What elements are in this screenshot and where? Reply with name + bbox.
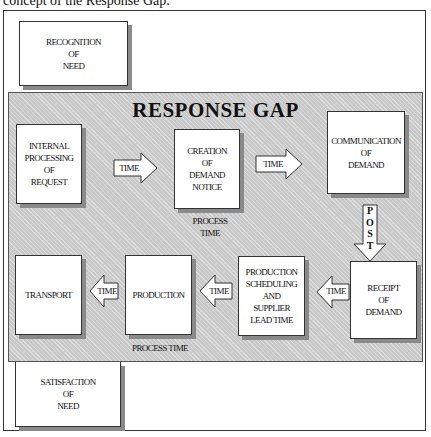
box-line: RECEIPT <box>366 282 402 294</box>
box-line: NOTICE <box>187 181 227 193</box>
post-letter: O <box>360 217 380 229</box>
time-label: TIME <box>323 285 349 297</box>
satisfaction-of-need-box: SATISFACTION OF NEED <box>15 362 121 427</box>
box-line: OF <box>366 294 402 306</box>
box-line: PRODUCTION <box>132 289 184 301</box>
box-line: OF <box>24 164 73 176</box>
box-line: DEMAND <box>366 306 402 318</box>
box-line: PROCESSING <box>24 152 73 164</box>
box-line: OF <box>46 48 101 60</box>
time-label: TIME <box>206 285 232 297</box>
box-line: NEED <box>46 60 101 72</box>
box-line: SATISFACTION <box>40 376 95 388</box>
recognition-of-need-box: RECOGNITION OF NEED <box>19 21 128 86</box>
figure-caption: concept of the Response Gap. <box>3 0 170 9</box>
process-time-label-bottom: PROCESS TIME <box>110 342 210 354</box>
time-label: TIME <box>115 162 143 174</box>
box-line: NEED <box>40 400 95 412</box>
process-time-label-top: PROCESS TIME <box>180 215 240 239</box>
label-line: PROCESS <box>180 215 240 227</box>
post-letter: S <box>360 228 380 240</box>
creation-of-demand-notice-box: CREATION OF DEMAND NOTICE <box>174 129 240 209</box>
box-line: COMMUNICATION <box>331 135 401 147</box>
box-line: OF <box>40 388 95 400</box>
production-scheduling-box: PRODUCTION SCHEDULING AND SUPPLIER LEAD … <box>238 256 305 336</box>
communication-of-demand-box: COMMUNICATION OF DEMAND <box>327 111 405 194</box>
internal-processing-box: INTERNAL PROCESSING OF REQUEST <box>16 124 82 204</box>
box-line: DEMAND <box>187 169 227 181</box>
box-line: OF <box>187 157 227 169</box>
transport-box: TRANSPORT <box>15 255 82 335</box>
box-line: REQUEST <box>24 176 73 188</box>
box-line: OF <box>331 147 401 159</box>
label-line: TIME <box>180 227 240 239</box>
receipt-of-demand-box: RECEIPT OF DEMAND <box>350 261 417 339</box>
box-line: CREATION <box>187 145 227 157</box>
box-line: SCHEDULING <box>245 278 297 290</box>
box-line: RECOGNITION <box>46 36 101 48</box>
box-line: LEAD TIME <box>245 314 297 326</box>
box-line: AND <box>245 290 297 302</box>
production-box: PRODUCTION <box>125 255 192 335</box>
box-line: DEMAND <box>331 159 401 171</box>
box-line: SUPPLIER <box>245 302 297 314</box>
box-line: PRODUCTION <box>245 266 297 278</box>
post-letter: P <box>360 205 380 217</box>
post-letter: T <box>360 240 380 252</box>
post-label: P O S T <box>360 205 380 251</box>
time-label: TIME <box>258 158 288 170</box>
box-line: TRANSPORT <box>25 289 72 301</box>
time-label: TIME <box>95 285 119 297</box>
box-line: INTERNAL <box>24 140 73 152</box>
